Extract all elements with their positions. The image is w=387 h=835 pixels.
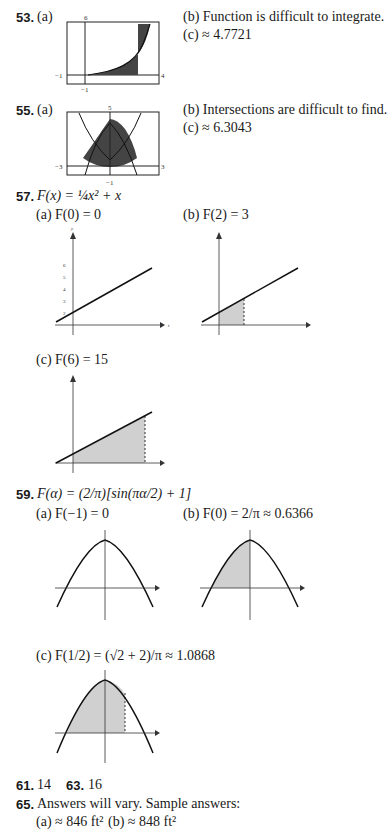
problem-57-number: 57. (16, 189, 34, 204)
svg-text:5: 5 (63, 275, 66, 280)
problem-53-graph: 6 −1 4 −1 (55, 14, 170, 92)
problem-57-part-a: (a) F(0) = 0 (36, 207, 101, 223)
problem-59b-graph (200, 525, 320, 620)
svg-text:y: y (70, 226, 74, 231)
svg-text:−1: −1 (81, 86, 89, 92)
problem-55-number: 55. (16, 103, 34, 118)
problem-53-part-a: (a) (37, 9, 53, 25)
svg-text:t: t (168, 323, 170, 328)
problem-59c-graph (55, 665, 175, 765)
problem-59-formula: F(α) = (2/π)[sin(πα/2) + 1] (37, 486, 191, 502)
problem-61-number: 61. (16, 778, 34, 793)
problem-63-number: 63. (66, 778, 84, 793)
problem-65-text: Answers will vary. Sample answers: (37, 796, 240, 812)
problem-57a-graph: y t 23456 (50, 225, 170, 335)
problem-65-part-a: (a) ≈ 846 ft² (36, 814, 103, 830)
problem-59-part-a: (a) F(−1) = 0 (36, 506, 109, 522)
problem-59-part-c: (c) F(1/2) = (√2 + 2)/π ≈ 1.0868 (36, 648, 215, 664)
problem-55-graph: 5 −3 3 −1 (55, 103, 170, 188)
problem-59-part-b: (b) F(0) = 2/π ≈ 0.6366 (183, 506, 313, 522)
svg-text:3: 3 (63, 299, 66, 304)
problem-53-part-b: (b) Function is difficult to integrate. (183, 9, 384, 25)
problem-57-part-b: (b) F(2) = 3 (183, 207, 249, 223)
svg-text:4: 4 (63, 287, 66, 292)
svg-text:4: 4 (161, 72, 165, 80)
problem-59a-graph (55, 525, 175, 620)
problem-53-number: 53. (16, 10, 34, 25)
problem-65-number: 65. (16, 797, 34, 812)
problem-57-part-c: (c) F(6) = 15 (36, 352, 108, 368)
problem-63-answer: 16 (88, 777, 102, 793)
problem-55-part-c: (c) ≈ 6.3043 (183, 120, 252, 136)
svg-text:2: 2 (63, 311, 66, 316)
problem-57b-graph (196, 225, 316, 335)
problem-55-part-a: (a) (37, 102, 53, 118)
problem-61-answer: 14 (37, 777, 51, 793)
svg-text:−1: −1 (106, 179, 114, 187)
problem-57-formula: F(x) = ¼x² + x (37, 188, 121, 204)
problem-53-part-c: (c) ≈ 4.7721 (183, 27, 252, 43)
problem-57c-graph (50, 368, 170, 473)
svg-text:−3: −3 (55, 163, 63, 171)
problem-65-part-b: (b) ≈ 848 ft² (108, 814, 176, 830)
problem-59-number: 59. (16, 487, 34, 502)
problem-55-part-b: (b) Intersections are difficult to find. (183, 102, 387, 118)
svg-text:3: 3 (161, 163, 165, 171)
svg-text:6: 6 (84, 14, 88, 22)
svg-text:−1: −1 (55, 72, 63, 80)
svg-text:6: 6 (63, 263, 66, 268)
svg-text:5: 5 (108, 104, 112, 112)
